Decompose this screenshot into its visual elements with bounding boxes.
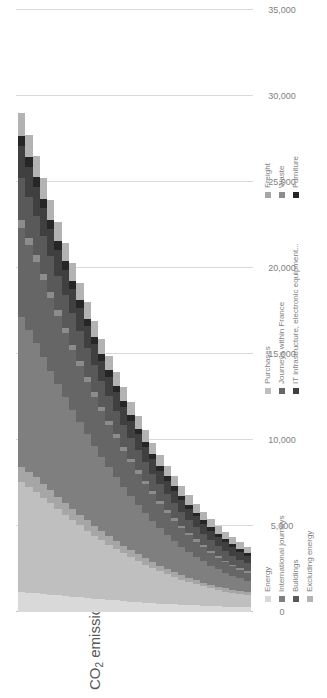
bar-segment[interactable] [54, 509, 61, 595]
bar-segment[interactable] [127, 550, 134, 557]
bar-segment[interactable] [54, 497, 61, 510]
bar-segment[interactable] [200, 561, 207, 582]
bar-segment[interactable] [215, 526, 222, 534]
bar-segment[interactable] [47, 298, 54, 370]
bar-segment[interactable] [98, 354, 105, 361]
bar-segment[interactable] [178, 605, 185, 612]
bar-segment[interactable] [127, 421, 134, 438]
bar-segment[interactable] [69, 410, 76, 509]
bar-segment[interactable] [54, 310, 61, 316]
bar-segment[interactable] [18, 592, 25, 612]
bar-segment[interactable] [33, 262, 40, 343]
bar-segment[interactable] [62, 596, 69, 612]
bar-segment[interactable] [171, 572, 178, 577]
bar-segment[interactable] [69, 263, 76, 281]
bar-segment[interactable] [69, 313, 76, 344]
bar-segment[interactable] [244, 547, 251, 554]
bar-segment[interactable] [113, 549, 120, 600]
legend-item[interactable]: IT infrastructure, electronic equipment.… [291, 243, 300, 394]
bar-segment[interactable] [244, 571, 251, 572]
legend-item[interactable]: Buildings [291, 516, 300, 603]
bar-segment[interactable] [18, 136, 25, 147]
bar-segment[interactable] [127, 557, 134, 601]
bar-segment[interactable] [185, 520, 192, 533]
bar-segment[interactable] [135, 474, 142, 505]
bar-segment[interactable] [40, 594, 47, 612]
bar-segment[interactable] [91, 392, 98, 397]
bar-segment[interactable] [120, 553, 127, 601]
bar-segment[interactable] [18, 220, 25, 227]
bar-segment[interactable] [54, 316, 61, 384]
bar-segment[interactable] [33, 343, 40, 478]
bar-segment[interactable] [207, 606, 214, 612]
bar-segment[interactable] [207, 585, 214, 589]
bar-segment[interactable] [207, 566, 214, 585]
bar-segment[interactable] [98, 339, 105, 354]
bar-segment[interactable] [113, 411, 120, 434]
bar-segment[interactable] [98, 457, 105, 531]
legend-item[interactable]: Purchases [263, 243, 272, 394]
legend-item[interactable]: Waste [277, 156, 286, 198]
bar-segment[interactable] [222, 532, 229, 540]
bar-segment[interactable] [98, 411, 105, 457]
bar-row[interactable] [142, 10, 149, 612]
bar-row[interactable] [229, 10, 236, 612]
bar-segment[interactable] [244, 573, 251, 581]
bar-row[interactable] [178, 10, 185, 612]
bar-segment[interactable] [69, 509, 76, 520]
bar-segment[interactable] [149, 474, 156, 492]
bar-segment[interactable] [229, 593, 236, 607]
bar-segment[interactable] [40, 357, 47, 484]
bar-segment[interactable] [244, 607, 251, 612]
bar-segment[interactable] [105, 536, 112, 545]
bar-segment[interactable] [200, 520, 207, 524]
bar-segment[interactable] [135, 434, 142, 450]
bar-row[interactable] [25, 10, 32, 612]
bar-segment[interactable] [18, 467, 25, 482]
bar-segment[interactable] [178, 486, 185, 496]
bar-segment[interactable] [127, 438, 134, 459]
bar-segment[interactable] [18, 228, 25, 317]
bar-row[interactable] [236, 10, 243, 612]
bar-segment[interactable] [171, 503, 178, 518]
bar-row[interactable] [84, 10, 91, 612]
legend-item[interactable]: International journeys [277, 516, 286, 603]
bar-segment[interactable] [171, 486, 178, 490]
bar-segment[interactable] [113, 477, 120, 541]
bar-segment[interactable] [98, 599, 105, 612]
bar-segment[interactable] [185, 509, 192, 520]
bar-segment[interactable] [105, 467, 112, 536]
bar-segment[interactable] [229, 544, 236, 547]
bar-segment[interactable] [236, 594, 243, 607]
bar-segment[interactable] [200, 524, 207, 534]
legend-item[interactable]: Furniture [291, 156, 300, 198]
bar-segment[interactable] [40, 280, 47, 357]
bar-segment[interactable] [207, 540, 214, 551]
bar-segment[interactable] [222, 573, 229, 589]
bar-row[interactable] [207, 10, 214, 612]
bar-segment[interactable] [135, 561, 142, 602]
bar-segment[interactable] [156, 466, 163, 471]
bar-row[interactable] [62, 10, 69, 612]
bar-segment[interactable] [113, 438, 120, 477]
bar-segment[interactable] [105, 356, 112, 371]
bar-segment[interactable] [142, 603, 149, 612]
legend-item[interactable]: Freight [263, 156, 272, 198]
bar-segment[interactable] [127, 462, 134, 496]
bar-row[interactable] [171, 10, 178, 612]
bar-segment[interactable] [215, 606, 222, 612]
bar-segment[interactable] [193, 539, 200, 541]
bar-row[interactable] [91, 10, 98, 612]
bar-segment[interactable] [98, 381, 105, 407]
bar-segment[interactable] [40, 178, 47, 198]
bar-segment[interactable] [84, 377, 91, 382]
bar-segment[interactable] [33, 492, 40, 593]
bar-segment[interactable] [91, 365, 98, 392]
bar-segment[interactable] [33, 255, 40, 262]
bar-segment[interactable] [84, 326, 91, 348]
bar-segment[interactable] [76, 366, 83, 422]
bar-segment[interactable] [207, 588, 214, 606]
bar-segment[interactable] [76, 597, 83, 612]
bar-segment[interactable] [105, 545, 112, 600]
bar-segment[interactable] [33, 593, 40, 612]
